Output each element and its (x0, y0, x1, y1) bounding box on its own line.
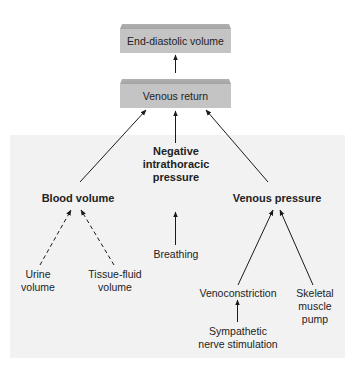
breathing-label: Breathing (136, 248, 216, 261)
venous-pressure-label: Venous pressure (222, 192, 332, 205)
venous-return-label: Venous return (143, 90, 208, 102)
end-diastolic-volume-box: End-diastolic volume (120, 29, 231, 53)
arrow-tissue-to-bv (81, 210, 114, 265)
sympathetic-nerve-stimulation-label: Sympathetic nerve stimulation (188, 325, 288, 351)
urine-volume-label: Urine volume (10, 268, 66, 294)
arrow-skeletal-to-vp (280, 210, 313, 285)
venous-return-box: Venous return (120, 84, 231, 108)
venoconstriction-label: Venoconstriction (196, 287, 280, 300)
arrow-urine-to-bv (40, 210, 71, 265)
tissue-fluid-volume-label: Tissue-fluid volume (80, 268, 150, 294)
end-diastolic-volume-label: End-diastolic volume (127, 35, 224, 47)
arrow-veno-to-vp (238, 210, 273, 285)
skeletal-muscle-pump-label: Skeletal muscle pump (290, 287, 340, 326)
negative-intrathoracic-pressure-label: Negative intrathoracic pressure (126, 145, 226, 184)
blood-volume-label: Blood volume (20, 192, 136, 205)
